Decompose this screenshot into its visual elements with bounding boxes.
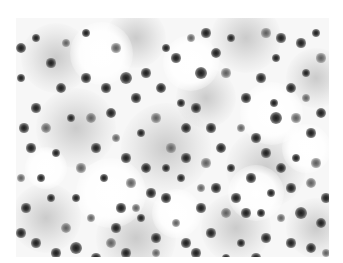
cell-nucleus bbox=[111, 223, 120, 232]
cell-nucleus bbox=[120, 72, 132, 84]
cell-nucleus bbox=[195, 67, 207, 79]
cell-nucleus bbox=[206, 123, 215, 132]
cell-nucleus bbox=[126, 178, 135, 187]
clear-region bbox=[282, 124, 330, 173]
cell-nucleus bbox=[62, 39, 70, 47]
cell-nucleus bbox=[172, 219, 180, 227]
cell-nucleus bbox=[221, 68, 230, 77]
cell-nucleus bbox=[76, 163, 85, 172]
cell-nucleus bbox=[46, 58, 55, 67]
cell-nucleus bbox=[81, 73, 90, 82]
cell-nucleus bbox=[101, 83, 110, 92]
cell-nucleus bbox=[191, 248, 200, 257]
cell-nucleus bbox=[151, 113, 160, 122]
cell-nucleus bbox=[302, 69, 310, 77]
cell-nucleus bbox=[227, 34, 235, 42]
cell-nucleus bbox=[222, 254, 230, 257]
cell-nucleus bbox=[91, 143, 100, 152]
cell-nucleus bbox=[201, 158, 210, 167]
cell-nucleus bbox=[121, 153, 130, 162]
cell-nucleus bbox=[82, 29, 90, 37]
cell-nucleus bbox=[166, 143, 175, 152]
cell-nucleus bbox=[270, 99, 278, 107]
cell-nucleus bbox=[87, 214, 95, 222]
cell-nucleus bbox=[162, 44, 170, 52]
stain-haze bbox=[211, 18, 281, 73]
cell-nucleus bbox=[322, 249, 329, 257]
cell-nucleus bbox=[295, 207, 307, 219]
cell-nucleus bbox=[72, 194, 80, 202]
cell-nucleus bbox=[227, 164, 235, 172]
cell-nucleus bbox=[272, 54, 280, 62]
cell-nucleus bbox=[32, 34, 40, 42]
clear-region bbox=[25, 147, 67, 189]
cell-nucleus bbox=[132, 204, 140, 212]
cell-nucleus bbox=[270, 112, 282, 124]
cell-nucleus bbox=[67, 114, 75, 122]
cell-nucleus bbox=[261, 148, 270, 157]
cell-nucleus bbox=[296, 38, 305, 47]
cell-nucleus bbox=[246, 173, 255, 182]
cell-nucleus bbox=[237, 124, 245, 132]
cell-nucleus bbox=[311, 158, 320, 167]
cell-nucleus bbox=[316, 108, 326, 118]
cell-nucleus bbox=[146, 188, 155, 197]
cell-nucleus bbox=[161, 193, 170, 202]
cell-nucleus bbox=[47, 194, 55, 202]
cell-nucleus bbox=[216, 143, 226, 153]
cell-nucleus bbox=[111, 43, 120, 52]
cell-nucleus bbox=[177, 174, 185, 182]
cell-nucleus bbox=[286, 183, 295, 192]
cell-nucleus bbox=[52, 149, 60, 157]
cell-micrograph bbox=[16, 18, 329, 257]
cell-nucleus bbox=[286, 238, 295, 247]
cell-nucleus bbox=[211, 183, 220, 192]
cell-nucleus bbox=[121, 248, 130, 257]
cell-nucleus bbox=[17, 174, 25, 182]
cell-nucleus bbox=[19, 123, 28, 132]
cell-nucleus bbox=[137, 129, 145, 137]
cell-nucleus bbox=[51, 248, 60, 257]
cell-nucleus bbox=[131, 93, 140, 102]
cell-nucleus bbox=[37, 174, 45, 182]
cell-nucleus bbox=[197, 184, 205, 192]
cell-nucleus bbox=[257, 209, 265, 217]
cell-nucleus bbox=[251, 253, 260, 257]
cell-nucleus bbox=[152, 249, 160, 257]
cell-nucleus bbox=[292, 154, 300, 162]
cell-nucleus bbox=[187, 34, 195, 42]
cell-nucleus bbox=[306, 128, 315, 137]
cell-nucleus bbox=[256, 73, 265, 82]
cell-nucleus bbox=[31, 238, 40, 247]
cell-nucleus bbox=[302, 94, 310, 102]
cell-nucleus bbox=[321, 193, 329, 202]
cell-nucleus bbox=[181, 238, 190, 247]
cell-nucleus bbox=[100, 174, 108, 182]
cell-nucleus bbox=[241, 208, 250, 217]
cell-nucleus bbox=[177, 99, 185, 107]
cell-nucleus bbox=[306, 178, 316, 188]
cell-nucleus bbox=[156, 83, 166, 93]
cell-nucleus bbox=[70, 242, 82, 254]
cell-nucleus bbox=[231, 193, 240, 202]
cell-nucleus bbox=[16, 228, 25, 237]
cell-nucleus bbox=[116, 203, 125, 212]
clear-region bbox=[152, 189, 201, 238]
cell-nucleus bbox=[316, 53, 325, 62]
cell-nucleus bbox=[137, 214, 145, 222]
cell-nucleus bbox=[312, 29, 320, 37]
cell-nucleus bbox=[191, 103, 200, 112]
cell-nucleus bbox=[196, 203, 205, 212]
cell-nucleus bbox=[237, 239, 245, 247]
cell-nucleus bbox=[241, 93, 250, 102]
clear-region bbox=[163, 35, 219, 91]
cell-nucleus bbox=[171, 53, 180, 62]
cell-nucleus bbox=[291, 113, 300, 122]
cell-nucleus bbox=[141, 68, 150, 77]
cell-nucleus bbox=[251, 133, 260, 142]
cell-nucleus bbox=[201, 28, 210, 37]
cell-nucleus bbox=[206, 228, 215, 237]
cell-nucleus bbox=[261, 28, 270, 37]
cell-nucleus bbox=[26, 143, 35, 152]
cell-nucleus bbox=[277, 214, 285, 222]
